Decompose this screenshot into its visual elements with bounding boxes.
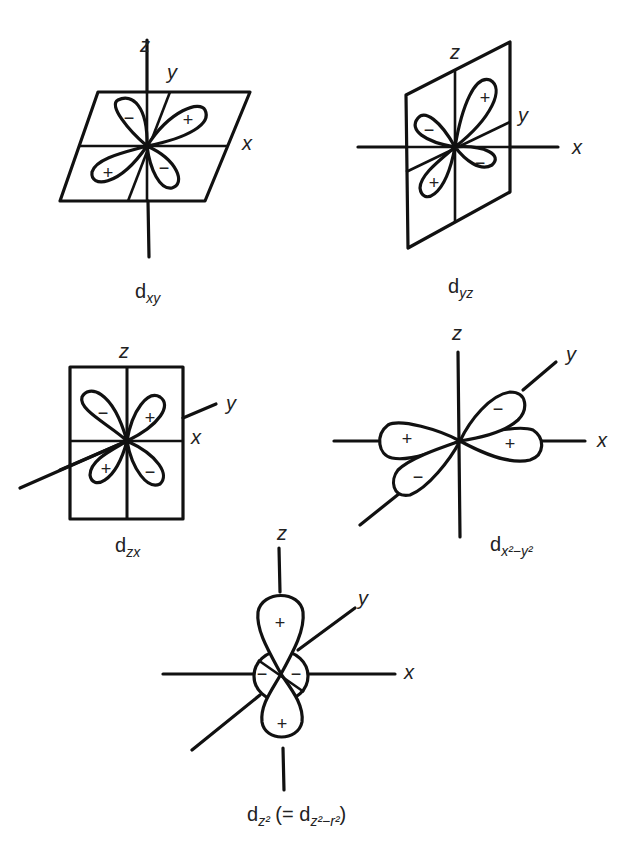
axis-label-y: y — [226, 393, 236, 413]
panel-dz2 — [163, 548, 395, 790]
axis-label-y: y — [566, 344, 576, 364]
lobe-sign: + — [402, 430, 413, 448]
y-axis-front — [192, 695, 260, 750]
z-axis-bottom — [283, 748, 284, 790]
d-orbitals-diagram — [0, 0, 623, 845]
caption-equiv-sub: z²−r² — [310, 813, 339, 829]
lobe-sign: + — [480, 89, 491, 107]
lobe-sign: + — [145, 409, 156, 427]
lobe-sign: + — [277, 715, 288, 733]
axis-label-x: x — [242, 133, 252, 153]
lobe-sign: − — [475, 154, 486, 172]
axis-label-z: z — [450, 42, 460, 62]
panel-dyz — [358, 42, 558, 248]
axis-label-x: x — [191, 427, 201, 447]
z-axis-bottom — [148, 201, 149, 257]
lobe-sign: − — [291, 665, 302, 683]
axis-label-z: z — [452, 323, 462, 343]
lobe-sign: − — [424, 121, 435, 139]
caption-sub: yz — [459, 285, 473, 301]
caption-main: d — [115, 534, 126, 556]
caption-dx2-y2: dx²−y² — [490, 534, 533, 558]
lobe-sign: − — [493, 400, 504, 418]
caption-dzx: dzx — [115, 535, 140, 559]
caption-main: d — [448, 275, 459, 297]
lobe-sign: − — [413, 468, 424, 486]
axis-label-z: z — [140, 35, 150, 55]
caption-sub: x²−y² — [501, 543, 533, 559]
lobe-sign: + — [275, 614, 286, 632]
caption-close-paren: ) — [340, 803, 347, 825]
caption-sub: xy — [146, 290, 160, 306]
lobe-sign: − — [145, 463, 156, 481]
lobe-sign: + — [505, 435, 516, 453]
lobe-sign: + — [103, 164, 114, 182]
lobe-sign: + — [101, 460, 112, 478]
lobe-sign: − — [124, 109, 135, 127]
panel-dx2-y2 — [334, 352, 585, 537]
y-axis-front — [360, 493, 400, 525]
caption-sub: z² — [258, 813, 270, 829]
axis-label-z: z — [277, 523, 287, 543]
y-axis-back — [298, 608, 355, 650]
caption-main: d — [247, 803, 258, 825]
panel-dxy — [60, 40, 250, 257]
y-axis-back — [523, 362, 556, 390]
lobe-sign: + — [429, 174, 440, 192]
axis-label-y: y — [167, 62, 177, 82]
axis-label-y: y — [358, 588, 368, 608]
lobe-sign: + — [183, 111, 194, 129]
axis-label-x: x — [404, 662, 414, 682]
axis-label-x: x — [597, 430, 607, 450]
caption-main: d — [135, 280, 146, 302]
z-axis-top — [279, 548, 280, 592]
axis-label-z: z — [119, 341, 129, 361]
caption-main: d — [490, 533, 501, 555]
caption-dxy: dxy — [135, 281, 160, 305]
caption-dyz: dyz — [448, 276, 473, 300]
y-axis-back — [183, 404, 216, 418]
caption-equiv: (= d — [275, 803, 310, 825]
panel-dzx — [20, 367, 216, 519]
axis-label-x: x — [572, 137, 582, 157]
lobe-sign: − — [159, 159, 170, 177]
caption-dz2: dz² (= dz²−r²) — [247, 804, 346, 828]
axis-label-y: y — [518, 105, 528, 125]
caption-sub: zx — [126, 544, 140, 560]
lobe-sign: − — [257, 665, 268, 683]
lobe-sign: − — [98, 404, 109, 422]
